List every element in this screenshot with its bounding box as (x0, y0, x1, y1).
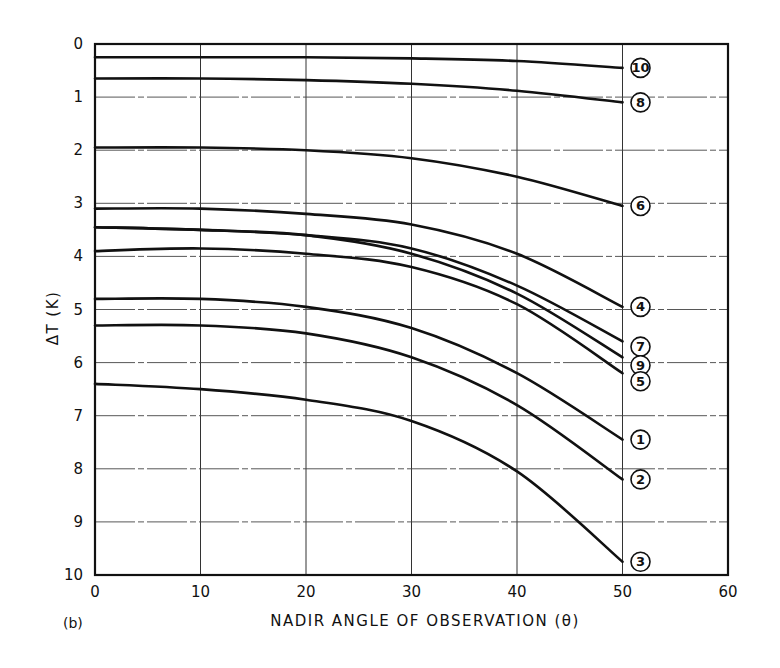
x-tick-label: 40 (507, 583, 526, 601)
x-tick-label: 10 (191, 583, 210, 601)
chart: 10864795123 0102030405060 012345678910 N… (0, 0, 780, 668)
y-tick-label: 7 (73, 407, 83, 425)
curve-label-7: 7 (631, 337, 650, 356)
curve-labels: 10864795123 (631, 58, 650, 571)
curve-6 (95, 147, 623, 206)
curve-number: 6 (636, 198, 645, 213)
y-tick-label: 5 (73, 301, 83, 319)
x-tick-label: 20 (296, 583, 315, 601)
y-tick-label: 1 (73, 88, 83, 106)
curve-label-2: 2 (631, 470, 650, 489)
y-tick-label: 8 (73, 460, 83, 478)
x-axis-title: NADIR ANGLE OF OBSERVATION (θ) (270, 612, 580, 630)
curve-number: 10 (631, 60, 649, 75)
curve-number: 4 (636, 299, 645, 314)
curve-number: 2 (636, 472, 645, 487)
curve-9 (95, 227, 623, 357)
curve-number: 8 (636, 95, 645, 110)
curve-label-5: 5 (631, 372, 650, 391)
curve-label-3: 3 (631, 552, 650, 571)
curve-number: 7 (636, 339, 645, 354)
curve-label-10: 10 (631, 58, 650, 77)
curve-number: 5 (636, 374, 645, 389)
x-tick-label: 50 (613, 583, 632, 601)
x-axis-ticks: 0102030405060 (90, 583, 737, 601)
panel-label: (b) (63, 615, 83, 631)
curve-label-6: 6 (631, 196, 650, 215)
y-tick-label: 3 (73, 194, 83, 212)
x-tick-label: 30 (402, 583, 421, 601)
x-tick-label: 0 (90, 583, 100, 601)
y-tick-label: 9 (73, 513, 83, 531)
curve-number: 3 (636, 554, 645, 569)
curve-10 (95, 57, 623, 68)
curve-label-8: 8 (631, 93, 650, 112)
curve-3 (95, 384, 623, 562)
y-axis-ticks: 012345678910 (64, 35, 83, 584)
curve-label-4: 4 (631, 297, 650, 316)
x-tick-label: 60 (718, 583, 737, 601)
y-tick-label: 0 (73, 35, 83, 53)
y-tick-label: 2 (73, 141, 83, 159)
curve-label-1: 1 (631, 430, 650, 449)
curve-2 (95, 325, 623, 480)
curve-number: 1 (636, 432, 645, 447)
y-axis-title: ΔT (K) (44, 291, 62, 346)
y-tick-label: 6 (73, 354, 83, 372)
curve-number: 9 (636, 358, 645, 373)
curve-5 (95, 248, 623, 373)
y-tick-label: 4 (73, 247, 83, 265)
y-tick-label: 10 (64, 566, 83, 584)
curve-8 (95, 78, 623, 102)
